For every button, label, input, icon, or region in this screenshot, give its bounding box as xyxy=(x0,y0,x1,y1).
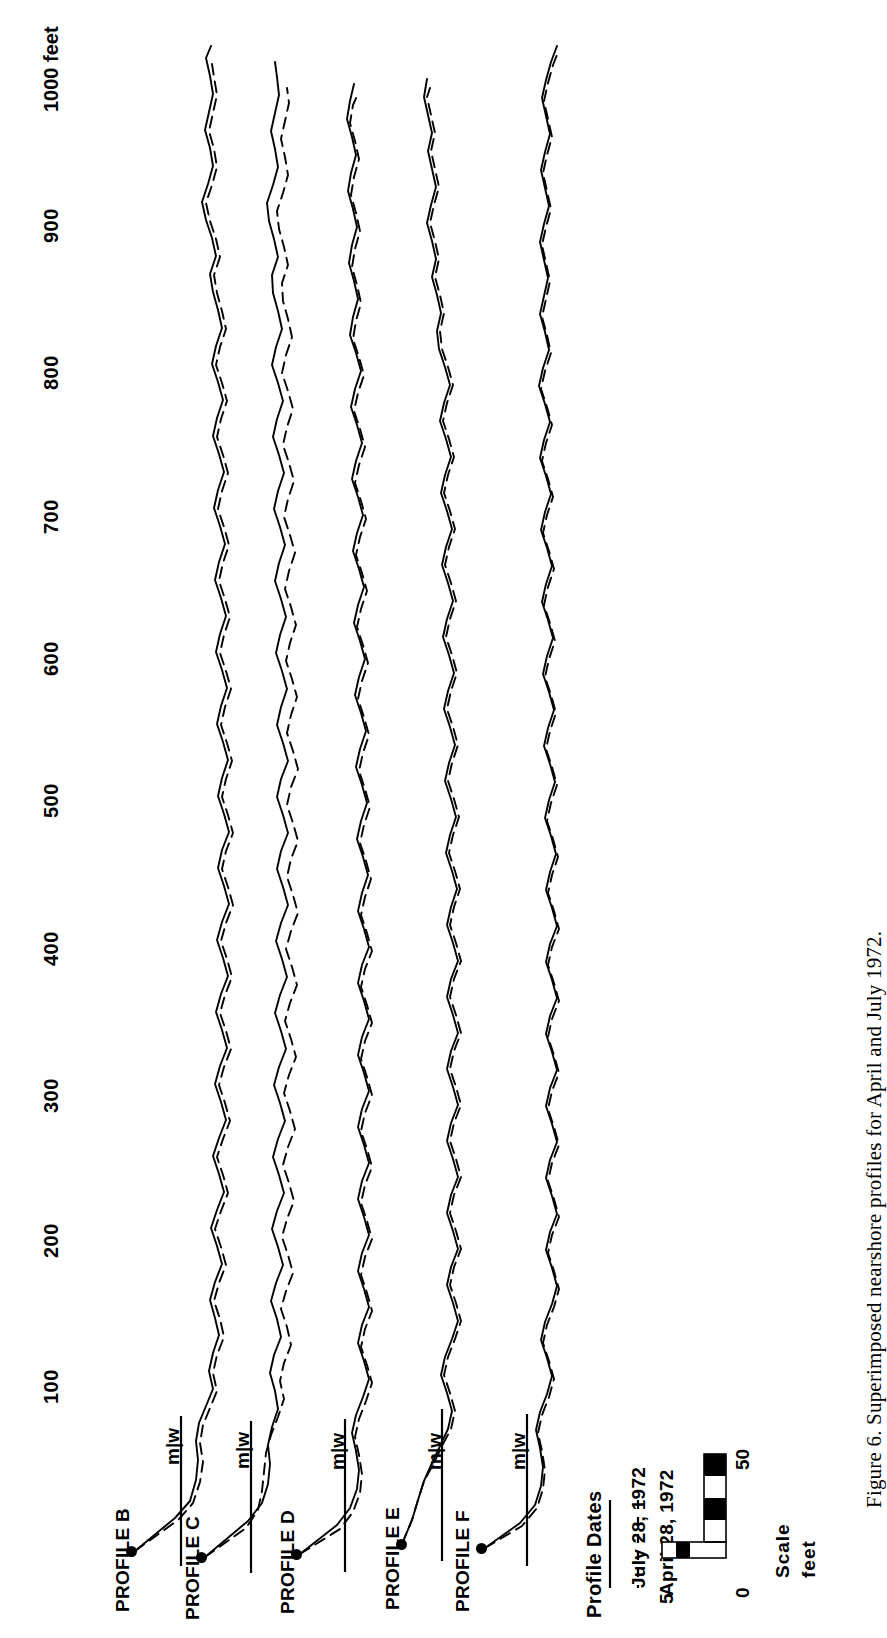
profile-curve-e xyxy=(402,79,461,1544)
legend-swatch-dashed xyxy=(636,1500,640,1590)
legend-title: Profile Dates xyxy=(583,1491,606,1618)
profile-d-july-line xyxy=(300,84,369,1554)
profile-f-july-line xyxy=(485,46,557,1548)
scale-caption-line2: feet xyxy=(798,1540,820,1578)
scale-horizontal-min-label: 0 xyxy=(732,1587,754,1598)
profile-curve-b xyxy=(135,46,233,1551)
profile-curve-f xyxy=(485,46,559,1548)
profile-b-july-line xyxy=(135,46,229,1551)
profile-f-april-line xyxy=(485,50,559,1548)
scale-caption-line1: Scale xyxy=(772,1523,794,1578)
scale-bar-horizontal-arm xyxy=(704,1454,726,1542)
figure-caption: Figure 6. Superimposed nearshore profile… xyxy=(862,931,887,1508)
profile-e-april-line xyxy=(402,88,461,1544)
profile-e-july-line xyxy=(402,79,458,1544)
scale-bar-vertical-arm xyxy=(662,1542,726,1558)
profile-d-april-line xyxy=(300,96,372,1554)
profile-c-july-line xyxy=(205,62,288,1557)
mlw-datum-lines xyxy=(181,1409,527,1573)
profile-curve-d xyxy=(300,84,372,1554)
scale-vertical-max-label: 5 xyxy=(656,1593,678,1604)
scale-horizontal-max-label: 50 xyxy=(732,1449,754,1470)
legend-swatch-solid xyxy=(608,1500,612,1590)
